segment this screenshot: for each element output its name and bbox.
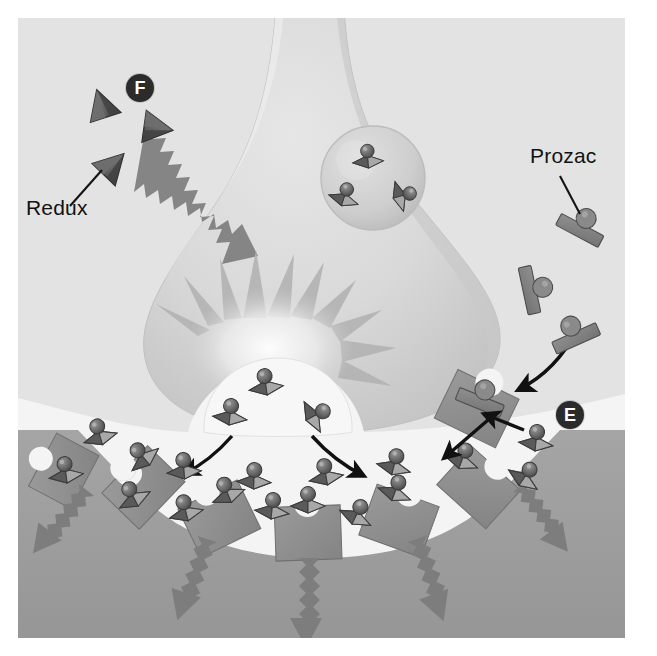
synapse-diagram: Redux Prozac F E bbox=[18, 18, 625, 638]
redux-label: Redux bbox=[26, 196, 88, 220]
prozac-molecule-2 bbox=[518, 262, 557, 315]
prozac-label: Prozac bbox=[530, 144, 597, 168]
badge-f: F bbox=[126, 74, 154, 102]
diagram-canvas bbox=[18, 18, 625, 638]
top-crop-artifact bbox=[300, 0, 360, 14]
prozac-leader-line bbox=[560, 176, 580, 214]
synaptic-vesicle bbox=[321, 126, 425, 230]
prozac-molecule-3 bbox=[545, 307, 601, 354]
badge-e: E bbox=[556, 401, 584, 429]
redux-particle-1 bbox=[82, 85, 121, 122]
prozac-molecule-1 bbox=[556, 198, 612, 247]
figure-page: Redux Prozac F E bbox=[0, 0, 657, 656]
redux-particle-3 bbox=[92, 143, 135, 186]
